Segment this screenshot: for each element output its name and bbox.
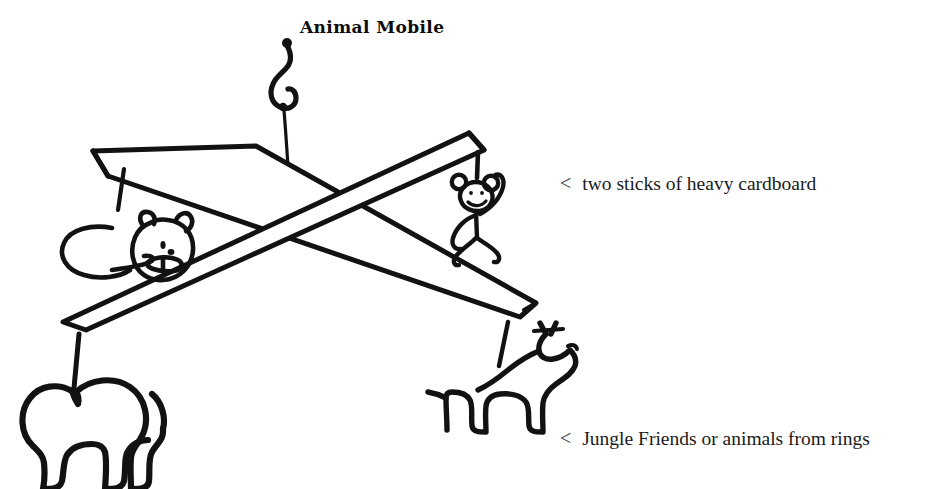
lion-figure — [62, 212, 193, 280]
hanging-hook-icon — [271, 38, 296, 111]
monkey-figure — [452, 175, 504, 266]
animal-mobile-drawing — [0, 0, 928, 489]
annotation-cardboard-sticks: <two sticks of heavy cardboard — [560, 172, 816, 195]
annotation-jungle-friends: <Jungle Friends or animals from rings — [560, 427, 870, 450]
page-title: Animal Mobile — [300, 17, 444, 37]
illustration-canvas: Animal Mobile <two sticks of heavy cardb… — [0, 0, 928, 489]
pointer-marker-icon: < — [560, 427, 571, 450]
annotation-cardboard-sticks-label: two sticks of heavy cardboard — [582, 173, 816, 194]
pointer-marker-icon: < — [560, 172, 571, 195]
annotation-jungle-friends-label: Jungle Friends or animals from rings — [582, 428, 870, 449]
elephant-figure — [22, 380, 164, 489]
